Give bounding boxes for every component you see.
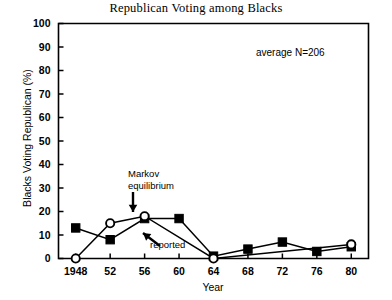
marker-open-circle: [209, 254, 217, 262]
arrow-markov-equilibrium: [129, 192, 138, 212]
marker-filled-square: [72, 224, 80, 232]
marker-open-circle: [347, 240, 355, 248]
arrow-markov-equilibrium-head: [129, 205, 138, 212]
marker-open-circle: [141, 212, 149, 220]
axis-frame: [59, 24, 369, 259]
marker-filled-square: [106, 236, 114, 244]
axis-ticks: [59, 24, 352, 259]
marker-filled-square: [244, 245, 252, 253]
marker-filled-square: [278, 238, 286, 246]
chart-figure: Republican Voting among Blacks Blacks Vo…: [0, 0, 392, 300]
marker-open-circle: [106, 219, 114, 227]
plot-area: [0, 0, 392, 300]
marker-open-circle: [72, 254, 80, 262]
plot-frame: [59, 24, 369, 259]
series-line-reported: [76, 219, 352, 257]
arrow-reported: [143, 233, 160, 246]
marker-filled-square: [175, 214, 183, 222]
data-series: [72, 212, 356, 263]
